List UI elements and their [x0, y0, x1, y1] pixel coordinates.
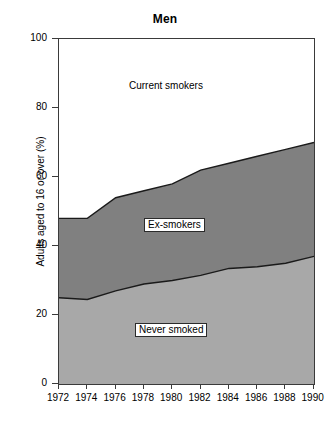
- y-tick-label-80: 80: [7, 102, 47, 112]
- y-axis-title: Adults aged to 16 or over (%): [35, 52, 46, 352]
- page-title: Men: [0, 12, 330, 26]
- series-label-never-smoked: Never smoked: [135, 323, 207, 337]
- series-label-ex-smokers: Ex-smokers: [144, 218, 205, 232]
- y-tick-label-20: 20: [7, 309, 47, 319]
- x-tick-label-1990: 1990: [293, 392, 330, 403]
- y-tick-label-40: 40: [7, 240, 47, 250]
- plot-area: Current smokers Ex-smokers Never smoked: [58, 38, 315, 385]
- y-tick-label-0: 0: [7, 378, 47, 388]
- y-tick-label-100: 100: [7, 33, 47, 43]
- series-label-current-smokers: Current smokers: [127, 80, 205, 92]
- chart-figure: Men Adults aged to 16 or over (%) 100 80…: [0, 0, 330, 423]
- y-tick-label-60: 60: [7, 171, 47, 181]
